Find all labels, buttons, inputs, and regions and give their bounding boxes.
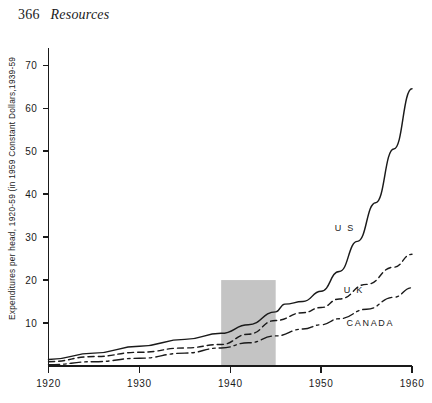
y-axis-ticks: 10203040506070: [25, 60, 48, 329]
y-tick-label: 60: [25, 103, 37, 114]
line-chart-figure: 10203040506070 19201930194019501960 U SU…: [0, 0, 432, 403]
y-tick-label: 50: [25, 146, 37, 157]
y-axis-title: Expenditures per head, 1920-59 (in 1959 …: [7, 57, 17, 320]
y-tick-label: 20: [25, 275, 37, 286]
x-tick-label: 1930: [127, 378, 152, 389]
x-tick-label: 1940: [218, 378, 243, 389]
x-tick-label: 1950: [309, 378, 334, 389]
series-label-canada: CANADA: [347, 318, 395, 328]
chart-canvas: 10203040506070 19201930194019501960 U SU…: [0, 0, 432, 403]
y-tick-label: 70: [25, 60, 37, 71]
x-tick-label: 1920: [36, 378, 61, 389]
y-tick-label: 30: [25, 232, 37, 243]
series-label-u-s: U S: [335, 223, 355, 233]
y-tick-label: 10: [25, 318, 37, 329]
x-tick-label: 1960: [400, 378, 425, 389]
chart-series-labels: U SU KCANADA: [335, 223, 395, 329]
series-label-u-k: U K: [344, 285, 364, 295]
y-tick-label: 40: [25, 189, 37, 200]
x-axis-ticks: 19201930194019501960: [36, 366, 424, 389]
